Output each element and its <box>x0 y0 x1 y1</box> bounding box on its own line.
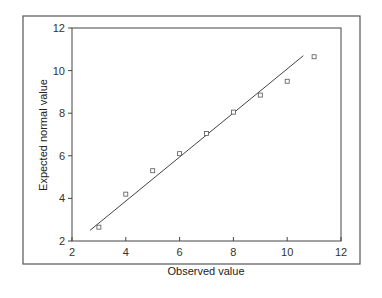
data-point-marker <box>151 169 155 173</box>
x-tick-label: 10 <box>281 246 293 258</box>
y-tick-label: 4 <box>59 192 65 204</box>
data-point-marker <box>312 55 316 59</box>
y-tick-label: 12 <box>53 22 65 34</box>
y-tick-label: 6 <box>59 150 65 162</box>
outer-frame <box>23 16 360 264</box>
y-axis-title: Expected normal value <box>37 79 49 191</box>
data-point-marker <box>258 93 262 97</box>
qq-plot: 2468101224681012 Observed value Expected… <box>0 0 382 298</box>
data-point-marker <box>97 225 101 229</box>
data-point-marker <box>124 192 128 196</box>
data-point-marker <box>178 152 182 156</box>
y-tick-label: 2 <box>59 235 65 247</box>
x-tick-label: 8 <box>230 246 236 258</box>
data-point-marker <box>285 79 289 83</box>
x-tick-label: 6 <box>177 246 183 258</box>
data-point-marker <box>231 110 235 114</box>
x-tick-label: 4 <box>123 246 129 258</box>
x-axis-title: Observed value <box>167 265 244 277</box>
y-tick-label: 10 <box>53 65 65 77</box>
reference-line <box>90 56 303 231</box>
x-tick-label: 2 <box>69 246 75 258</box>
y-tick-label: 8 <box>59 107 65 119</box>
x-tick-label: 12 <box>335 246 347 258</box>
plot-area: 2468101224681012 <box>53 22 347 258</box>
data-point-marker <box>205 131 209 135</box>
